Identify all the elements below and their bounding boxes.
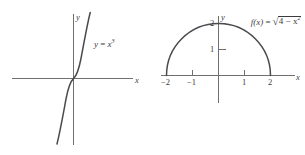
graph-panel-semicircle: y x −2 −1 1 2 1 2 f(x) = √4 − x2 (152, 0, 305, 155)
cubic-plot-svg (0, 0, 152, 155)
semicircle-ytick-label-2: 2 (210, 19, 214, 28)
semicircle-radical-group: √4 − x2 (273, 16, 301, 27)
semicircle-function-label: f(x) = √4 − x2 (251, 16, 301, 27)
semicircle-xtick-label--1: −1 (187, 78, 196, 87)
graph-panel-cubic: y x y = x3 (0, 0, 152, 155)
cubic-label-operator: = (98, 39, 108, 49)
semicircle-x-axis-label: x (296, 73, 300, 82)
semicircle-xtick-label--2: −2 (161, 78, 170, 87)
cubic-x-axis-label: x (135, 76, 139, 85)
cubic-label-exponent: 3 (112, 38, 115, 44)
semicircle-radicand: 4 − x2 (278, 16, 301, 27)
semicircle-xtick-label-1: 1 (242, 78, 246, 87)
semicircle-radicand-body: 4 − x (279, 16, 298, 26)
figure-root: y x y = x3 y x −2 −1 1 2 (0, 0, 305, 155)
cubic-y-axis-label: y (76, 13, 80, 22)
cubic-function-label: y = x3 (94, 40, 115, 49)
semicircle-y-axis-label: y (221, 13, 225, 22)
semicircle-label-lhs: f(x) (251, 17, 264, 27)
semicircle-label-operator: = (263, 17, 273, 27)
semicircle-xtick-label-2: 2 (268, 78, 272, 87)
semicircle-radicand-exponent: 2 (297, 15, 300, 21)
semicircle-ytick-label-1: 1 (210, 45, 214, 54)
